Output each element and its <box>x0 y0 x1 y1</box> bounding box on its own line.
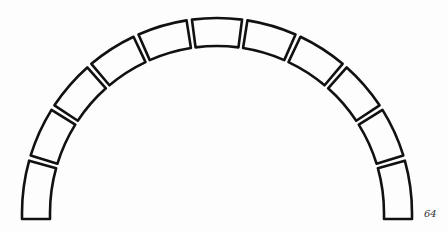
voussoir-stone <box>378 161 412 219</box>
figure-number: 64 <box>424 208 437 219</box>
voussoir-stone <box>31 110 76 164</box>
voussoir-stone <box>192 18 242 47</box>
voussoir-stone <box>328 67 379 120</box>
arch-diagram <box>0 0 448 232</box>
voussoir-stone <box>138 20 190 60</box>
voussoir-stone <box>359 110 404 164</box>
voussoir-stone <box>91 37 145 86</box>
voussoir-stone <box>288 37 342 86</box>
voussoir-stone <box>22 161 56 219</box>
voussoir-stone <box>243 20 295 60</box>
voussoir-stone <box>54 67 105 120</box>
